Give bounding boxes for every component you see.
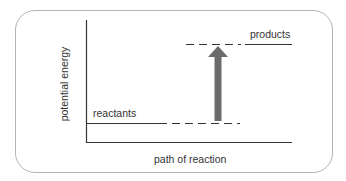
- y-axis-label: potential energy: [58, 47, 70, 122]
- products-label: products: [250, 28, 290, 40]
- energy-up-arrow-icon: [208, 46, 228, 121]
- x-axis-label: path of reaction: [154, 153, 226, 165]
- reactants-label: reactants: [93, 107, 136, 119]
